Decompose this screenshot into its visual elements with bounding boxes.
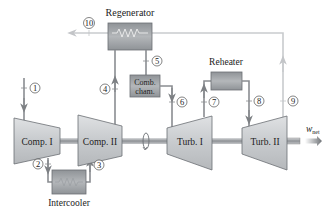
turbine-1-label: Turb. I — [177, 137, 203, 147]
svg-text:7: 7 — [212, 97, 216, 107]
reheater: Reheater — [209, 57, 244, 90]
svg-text:6: 6 — [180, 97, 184, 107]
turbine-2-label: Turb. II — [250, 137, 279, 147]
compressor-2-label: Comp. II — [83, 137, 117, 147]
reheater-label: Reheater — [209, 57, 244, 67]
pipe-2 — [48, 158, 52, 182]
svg-text:5: 5 — [155, 56, 159, 66]
svg-text:3: 3 — [97, 160, 101, 170]
regenerator-label: Regenerator — [106, 7, 156, 18]
svg-text:9: 9 — [291, 96, 295, 106]
svg-text:1: 1 — [33, 83, 37, 93]
combustion-label-line2: cham. — [135, 87, 154, 96]
net-work-output: wnet — [305, 124, 322, 146]
compressor-1: Comp. I — [14, 118, 60, 164]
regenerator: Regenerator — [106, 7, 156, 50]
wnet-label: wnet — [306, 124, 320, 135]
exhaust-pipe — [72, 33, 283, 118]
turbine-1: Turb. I — [167, 116, 212, 170]
pipe-6 — [160, 86, 172, 130]
intercooler: Intercooler — [48, 170, 91, 208]
svg-text:8: 8 — [257, 96, 261, 106]
pipe-8 — [242, 81, 249, 130]
svg-text:2: 2 — [36, 159, 40, 169]
combustion-chamber: Comb. cham. — [130, 75, 160, 97]
combustion-label-line1: Comb. — [134, 78, 156, 87]
compressor-1-label: Comp. I — [21, 137, 52, 147]
svg-text:10: 10 — [85, 18, 94, 28]
intercooler-label: Intercooler — [48, 198, 91, 208]
gas-turbine-diagram: Regenerator Comb. cham. Reheater — [0, 0, 336, 219]
